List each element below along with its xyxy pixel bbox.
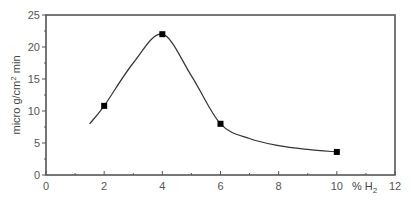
data-markers [101,31,340,155]
x-tick-label: 2 [101,180,107,192]
y-tick-label: 25 [28,9,40,21]
x-axis-ticks: 024681012 [43,171,401,192]
y-tick-label: 15 [28,73,40,85]
y-axis-ticks: 0510152025 [28,9,46,181]
x-tick-label: 4 [159,180,165,192]
x-tick-label: 10 [331,180,343,192]
y-tick-label: 20 [28,41,40,53]
y-tick-label: 10 [28,105,40,117]
data-point-marker [218,121,224,127]
data-point-marker [159,31,165,37]
x-tick-label: 6 [217,180,223,192]
y-tick-label: 5 [34,137,40,149]
fitted-curve [90,34,337,152]
x-axis-title: % H2 [352,180,378,195]
y-tick-label: 0 [34,169,40,181]
chart: 0510152025 024681012 micro g/cm2 min % H… [0,0,411,203]
x-tick-label: 0 [43,180,49,192]
data-point-marker [334,149,340,155]
y-axis-title: micro g/cm2 min [9,55,22,134]
plot-frame [46,15,395,175]
x-tick-label: 8 [276,180,282,192]
data-point-marker [101,103,107,109]
x-tick-label: 12 [389,180,401,192]
